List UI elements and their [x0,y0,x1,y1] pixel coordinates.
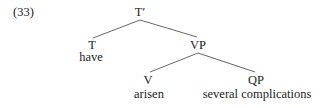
node-v: V [143,74,152,87]
edge-vp-qp [198,53,255,72]
edge-vp-v [150,53,198,72]
leaf-have: have [79,51,103,64]
edge-tbar-vp [140,20,197,37]
node-tbar: T′ [135,6,145,19]
edge-tbar-t [93,20,140,38]
node-vp: VP [190,39,206,52]
node-qp: QP [248,74,264,87]
leaf-several-complications: several complications [203,88,312,101]
leaf-arisen: arisen [134,88,164,101]
